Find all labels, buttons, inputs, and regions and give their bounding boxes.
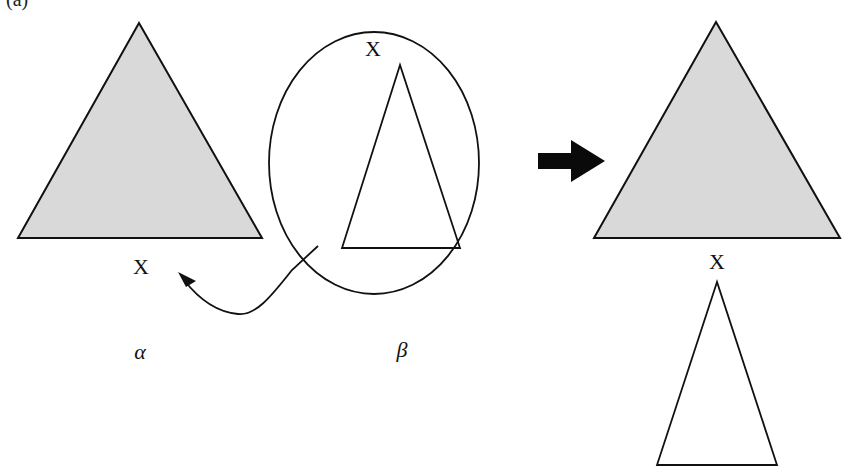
unshaded-triangle-result-lower: [657, 282, 777, 465]
beta-caption: β: [396, 337, 408, 362]
block-arrow-shape: [538, 140, 605, 182]
alpha-caption: α: [134, 339, 146, 364]
curved-arrow-head: [178, 272, 196, 287]
left-tree-alpha: X α: [18, 23, 262, 364]
unshaded-triangle-beta: [342, 65, 460, 248]
beta-root-node-label: X: [365, 36, 381, 61]
curved-arrow-shaft: [184, 246, 318, 314]
curved-arrow-icon: [178, 246, 318, 314]
result-junction-node-label: X: [709, 249, 725, 274]
shaded-triangle-alpha: [18, 23, 262, 238]
auxiliary-tree-beta: X β: [269, 32, 479, 362]
substitution-diagram: (a) X α X β X: [0, 0, 854, 475]
beta-enclosing-ellipse: [269, 32, 479, 294]
result-tree: X: [594, 22, 840, 465]
block-arrow-right-icon: [538, 140, 605, 182]
panel-label: (a): [6, 0, 28, 11]
shaded-triangle-result-upper: [594, 22, 840, 238]
alpha-foot-node-label: X: [133, 254, 149, 279]
